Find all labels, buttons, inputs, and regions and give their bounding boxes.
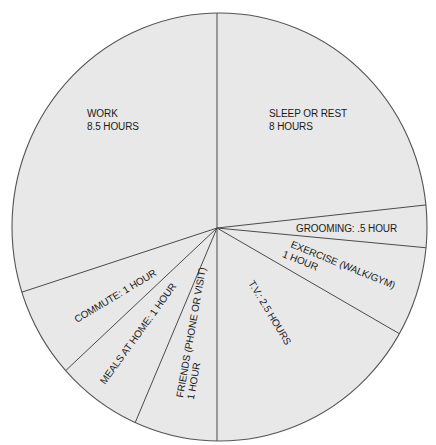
pie-chart: WORK 8.5 HOURS SLEEP OR REST 8 HOURS GRO… (0, 0, 436, 445)
slice-sleep (217, 13, 426, 228)
label-grooming: GROOMING: .5 HOUR (296, 223, 397, 234)
